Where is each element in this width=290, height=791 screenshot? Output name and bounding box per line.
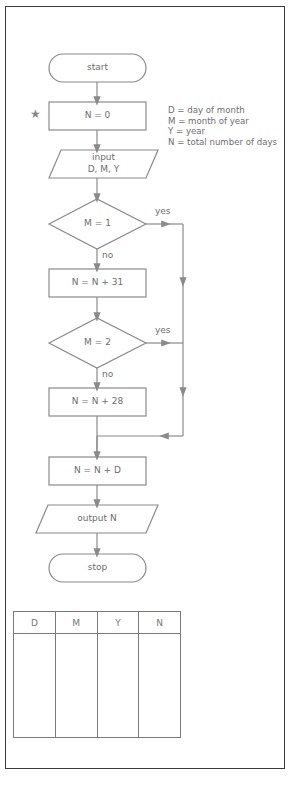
- column-header-m: M: [55, 612, 97, 634]
- legend-item: N = total number of days: [168, 137, 277, 148]
- stop-label: stop: [49, 562, 146, 572]
- decision2-label: M = 2: [49, 337, 146, 347]
- legend-item: M = month of year: [168, 116, 277, 127]
- input-label-line1: input: [49, 152, 158, 162]
- process1-label: N = N + 31: [49, 277, 146, 287]
- cell-d: [14, 634, 56, 738]
- legend-item: D = day of month: [168, 105, 277, 116]
- decision1-yes-label: yes: [155, 206, 171, 216]
- column-header-y: Y: [97, 612, 139, 634]
- trace-table: D M Y N: [13, 611, 181, 738]
- cell-y: [97, 634, 139, 738]
- decision1-label: M = 1: [49, 218, 146, 228]
- decision1-no-label: no: [102, 250, 113, 260]
- column-header-d: D: [14, 612, 56, 634]
- process2-label: N = N + 28: [49, 396, 146, 406]
- decision2-yes-label: yes: [155, 325, 171, 335]
- column-header-n: N: [139, 612, 181, 634]
- cell-m: [55, 634, 97, 738]
- output-label: output N: [42, 513, 152, 523]
- trace-table-header-row: D M Y N: [14, 612, 181, 634]
- legend-item: Y = year: [168, 126, 277, 137]
- input-label-line2: D, M, Y: [49, 164, 158, 174]
- cell-n: [139, 634, 181, 738]
- process3-label: N = N + D: [49, 465, 146, 475]
- decision2-no-label: no: [102, 369, 113, 379]
- start-label: start: [49, 62, 146, 72]
- star-icon: ★: [30, 107, 41, 121]
- init-label: N = 0: [49, 110, 146, 120]
- variable-legend: D = day of month M = month of year Y = y…: [168, 105, 277, 147]
- table-row: [14, 634, 181, 738]
